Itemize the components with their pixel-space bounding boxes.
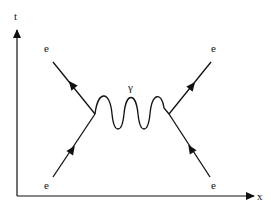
particle-label-bottom-right: e xyxy=(211,179,216,191)
electron-line-top-right xyxy=(169,62,211,114)
feynman-diagram: t x γ e e e e xyxy=(0,0,271,222)
particle-label-top-left: e xyxy=(44,42,49,54)
photon-label: γ xyxy=(127,81,133,93)
electron-line-top-left xyxy=(53,62,95,114)
photon-propagator xyxy=(95,96,169,129)
particle-label-top-right: e xyxy=(211,42,216,54)
space-axis-label: x xyxy=(257,190,263,202)
particle-label-bottom-left: e xyxy=(44,179,49,191)
electron-line-bottom-left xyxy=(53,114,95,177)
time-axis-label: t xyxy=(14,10,17,22)
electron-line-bottom-right xyxy=(169,114,210,177)
